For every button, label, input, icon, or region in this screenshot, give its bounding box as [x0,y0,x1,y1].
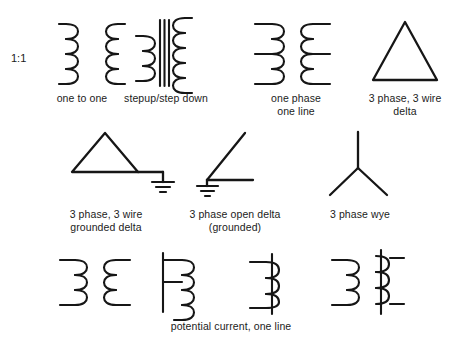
caption-grounded-delta: 3 phase, 3 wire grounded delta [58,208,154,233]
symbol-one-phase-one-line [255,24,330,84]
symbol-current-transformer [332,250,404,314]
caption-open-delta-grounded: 3 phase open delta (grounded) [174,208,296,233]
transformer-symbol-sheet: 1:1 one to one stepup/step down one phas… [0,0,458,349]
symbols-canvas [0,0,458,349]
caption-one-phase-one-line: one phase one line [252,92,340,117]
caption-delta-3ph-3wire: 3 phase, 3 wire delta [358,92,452,117]
symbol-potential-one-line [163,253,194,320]
symbol-current-one-line [250,254,279,314]
iron-core-lines [160,20,169,86]
ground-symbol [152,182,174,192]
ground-symbol [197,186,218,196]
caption-potential-current-one-line: potential current, one line [128,320,334,333]
symbol-open-delta-grounded [197,133,253,196]
ratio-label-1-1: 1:1 [11,52,26,64]
caption-wye-3ph: 3 phase wye [314,208,406,221]
symbol-delta-triangle [373,22,437,80]
caption-stepup-stepdown: stepup/step down [108,92,224,105]
symbol-stepup-stepdown [136,18,192,93]
symbol-potential-transformer [60,260,130,305]
symbol-one-to-one [59,24,125,84]
symbol-wye [330,132,387,195]
symbol-grounded-delta [72,133,174,192]
